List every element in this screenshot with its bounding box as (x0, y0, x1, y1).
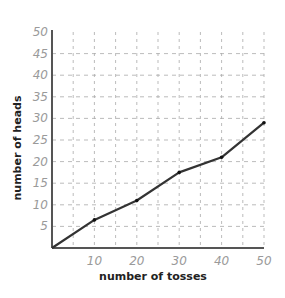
data-point (135, 199, 139, 203)
y-tick-label: 40 (33, 68, 49, 82)
x-tick-label: 40 (214, 254, 230, 268)
data-point (93, 218, 97, 222)
data-point (220, 155, 224, 159)
x-axis-label: number of tosses (99, 270, 207, 283)
data-point (262, 121, 266, 125)
y-axis-label: number of heads (11, 95, 24, 200)
line-chart: 5101520253035404550 1020304050 number of… (0, 0, 285, 298)
y-tick-label: 20 (33, 155, 49, 169)
y-tick-label: 30 (33, 111, 49, 125)
data-point (177, 171, 181, 175)
y-tick-label: 50 (33, 25, 49, 39)
y-tick-label: 15 (33, 176, 48, 190)
y-tick-label: 10 (33, 198, 49, 212)
data-point-markers (93, 121, 266, 222)
grid-lines (52, 32, 264, 248)
y-tick-label: 35 (33, 90, 48, 104)
y-tick-label: 5 (40, 219, 48, 233)
y-tick-labels: 5101520253035404550 (33, 25, 49, 233)
x-tick-label: 20 (129, 254, 145, 268)
x-tick-label: 10 (87, 254, 103, 268)
x-tick-label: 50 (256, 254, 272, 268)
y-tick-label: 45 (33, 47, 48, 61)
y-tick-label: 25 (33, 133, 48, 147)
x-tick-labels: 1020304050 (87, 254, 272, 268)
x-tick-label: 30 (172, 254, 188, 268)
